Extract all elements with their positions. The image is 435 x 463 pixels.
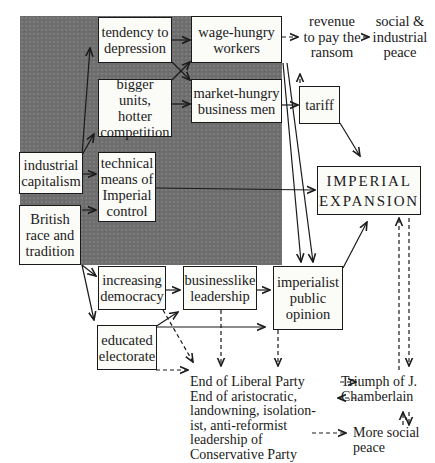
node-tariff: tariff	[299, 86, 340, 124]
node-industrial-capitalism: industrial capitalism	[19, 152, 83, 194]
label-social-industrial-peace: social & industrial peace	[367, 14, 433, 61]
node-tendency-to-depression: tendency to depression	[98, 17, 172, 63]
label-more-social-peace: More social peace	[353, 426, 435, 455]
node-increasing-democracy: increasing democracy	[98, 266, 166, 310]
label-end-of-liberal-party: End of Liberal Party End of aristocratic…	[190, 375, 340, 462]
node-businesslike-leadership: businesslike leadership	[183, 266, 257, 310]
label-triumph-chamberlain: Triumph of J. Chamberlain	[341, 375, 435, 404]
node-wage-hungry-workers: wage-hungry workers	[191, 16, 282, 63]
node-technical-means: technical means of Imperial control	[98, 152, 156, 222]
node-market-hungry-business-men: market-hungry business men	[191, 79, 282, 123]
node-educated-electorate: educated electorate	[97, 325, 157, 370]
node-imperial-expansion: IMPERIAL EXPANSION	[317, 166, 421, 215]
label-revenue-ransom: revenue to pay the ransom	[300, 14, 364, 61]
node-imperialist-public-opinion: imperialist public opinion	[273, 266, 343, 330]
node-british-race: British race and tradition	[19, 205, 81, 265]
node-bigger-units: bigger units, hotter competition	[98, 79, 172, 137]
